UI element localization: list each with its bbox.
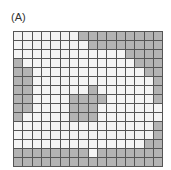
grid-cell	[154, 131, 163, 140]
grid-cell	[154, 68, 163, 77]
grid-cell	[51, 41, 60, 50]
grid-cell	[126, 131, 135, 140]
grid-cell	[107, 122, 116, 131]
grid-cell	[135, 59, 144, 68]
grid-cell	[126, 32, 135, 41]
grid-cell	[154, 113, 163, 122]
grid-cell	[154, 158, 163, 167]
grid-cell	[145, 113, 154, 122]
grid-cell	[98, 149, 107, 158]
grid-cell	[61, 158, 70, 167]
grid-cell	[79, 122, 88, 131]
grid-cell	[107, 131, 116, 140]
grid-cell	[33, 122, 42, 131]
grid-cell	[70, 32, 79, 41]
grid-cell	[98, 104, 107, 113]
grid-cell	[154, 140, 163, 149]
grid-cell	[51, 149, 60, 158]
grid-cell	[33, 32, 42, 41]
grid-cell	[61, 104, 70, 113]
grid-cell	[126, 140, 135, 149]
grid-cell	[117, 59, 126, 68]
grid-cell	[42, 68, 51, 77]
grid-cell	[135, 104, 144, 113]
grid-cell	[42, 122, 51, 131]
grid-cell	[126, 50, 135, 59]
grid-cell	[107, 158, 116, 167]
grid-cell	[14, 113, 23, 122]
grid-cell	[135, 50, 144, 59]
grid-cell	[61, 77, 70, 86]
grid-cell	[98, 32, 107, 41]
grid-cell	[79, 86, 88, 95]
grid-cell	[98, 68, 107, 77]
grid-cell	[70, 131, 79, 140]
grid-cell	[14, 50, 23, 59]
grid-cell	[42, 41, 51, 50]
grid-cell	[107, 50, 116, 59]
grid-cell	[79, 32, 88, 41]
grid-cell	[51, 50, 60, 59]
grid-cell	[70, 113, 79, 122]
grid-cell	[33, 77, 42, 86]
grid-cell	[42, 50, 51, 59]
grid-cell	[107, 32, 116, 41]
grid-cell	[107, 86, 116, 95]
grid-cell	[70, 86, 79, 95]
grid-cell	[42, 113, 51, 122]
grid-cell	[117, 95, 126, 104]
grid-cell	[117, 86, 126, 95]
grid-cell	[89, 95, 98, 104]
grid-cell	[42, 149, 51, 158]
grid-cell	[145, 149, 154, 158]
grid-cell	[135, 77, 144, 86]
grid-cell	[51, 104, 60, 113]
grid-cell	[135, 41, 144, 50]
grid-cell	[79, 113, 88, 122]
grid-cell	[89, 32, 98, 41]
grid-cell	[98, 95, 107, 104]
grid-cell	[14, 122, 23, 131]
grid-cell	[145, 104, 154, 113]
binary-grid	[13, 31, 163, 167]
grid-cell	[89, 104, 98, 113]
grid-cell	[135, 131, 144, 140]
grid-cell	[145, 68, 154, 77]
grid-cell	[154, 77, 163, 86]
grid-cell	[145, 140, 154, 149]
grid-cell	[33, 59, 42, 68]
grid-cell	[23, 77, 32, 86]
grid-cell	[126, 104, 135, 113]
grid-cell	[107, 77, 116, 86]
grid-cell	[107, 59, 116, 68]
grid-cell	[98, 113, 107, 122]
grid-cell	[70, 68, 79, 77]
grid-cell	[89, 158, 98, 167]
grid-cell	[117, 140, 126, 149]
grid-cell	[145, 59, 154, 68]
grid-cell	[79, 59, 88, 68]
grid-cell	[33, 140, 42, 149]
grid-cell	[107, 113, 116, 122]
grid-cell	[117, 149, 126, 158]
grid-cell	[126, 158, 135, 167]
grid-cell	[98, 140, 107, 149]
grid-cell	[23, 113, 32, 122]
grid-cell	[23, 131, 32, 140]
grid-cell	[23, 41, 32, 50]
grid-cell	[117, 77, 126, 86]
grid-cell	[61, 68, 70, 77]
grid-cell	[23, 158, 32, 167]
grid-cell	[154, 104, 163, 113]
grid-cell	[154, 41, 163, 50]
grid-cell	[89, 113, 98, 122]
grid-cell	[33, 104, 42, 113]
grid-cell	[107, 68, 116, 77]
grid-cell	[23, 86, 32, 95]
grid-cell	[135, 95, 144, 104]
grid-cell	[42, 86, 51, 95]
grid-cell	[107, 95, 116, 104]
grid-cell	[42, 131, 51, 140]
grid-cell	[51, 68, 60, 77]
grid-cell	[33, 50, 42, 59]
